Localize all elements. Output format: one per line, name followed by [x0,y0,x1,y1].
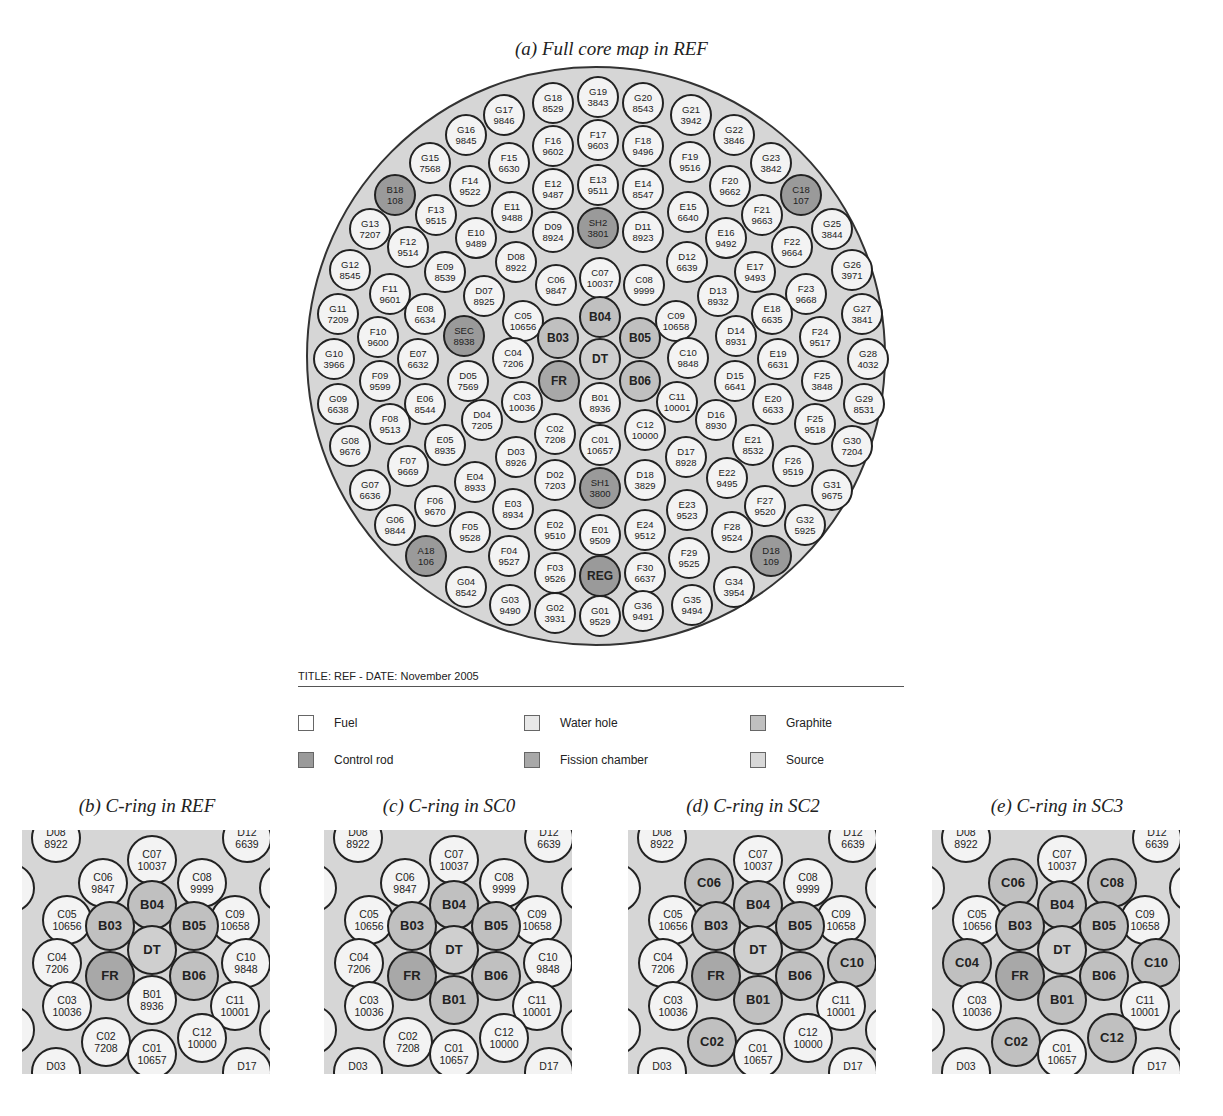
position-value: 9662 [719,186,740,197]
position-id: C12 [798,1026,817,1038]
core-position-g17: G179846 [483,94,525,136]
core-position-c10: C10 [827,938,876,988]
core-position-f27: F279520 [744,485,786,527]
position-id: C07 [444,848,463,860]
core-position-d17: D178928 [828,1047,876,1074]
position-value: 10037 [439,860,468,872]
core-position-d08: D088922 [333,830,383,863]
core-position-c05: C0510656 [952,895,1002,945]
position-id: D08 [652,830,671,838]
core-position-c05: C0510656 [42,895,92,945]
core-position-b01: B01 [429,975,479,1025]
position-id: B06 [182,970,206,982]
core-position-g35: G359494 [671,584,713,626]
position-id: C04 [47,951,66,963]
position-id: C07 [1052,848,1071,860]
position-value: 8932 [707,296,728,307]
position-id: A18 [418,545,435,556]
legend-label: Control rod [334,753,393,767]
position-id: B06 [788,970,812,982]
core-position-c06: C06 [684,858,734,908]
legend-item-graphite: Graphite [750,715,832,731]
core-position-b05: B05 [775,901,825,951]
core-position-b01: B01 [1037,975,1087,1025]
position-value: 10036 [658,1006,687,1018]
core-position-g06: G069844 [374,504,416,546]
position-value: 9528 [459,532,480,543]
legend-item-fission: Fission chamber [524,752,648,768]
core-position-g23: G233842 [750,142,792,184]
position-id: C01 [444,1042,463,1054]
core-position-e16: E169492 [705,217,747,259]
core-position-e07: E076632 [397,338,439,380]
core-position-c04: C04 [942,938,992,988]
position-value: 9669 [397,466,418,477]
position-value: 10657 [137,1054,166,1066]
position-value: 8928 [235,1072,258,1074]
position-value: 9513 [379,424,400,435]
position-value: 3829 [634,480,655,491]
core-position-g21: G213942 [670,94,712,136]
position-id: G36 [634,600,652,611]
position-id: F13 [428,204,444,215]
position-id: F30 [637,562,653,573]
position-value: 9524 [721,532,742,543]
core-position-f16: F169602 [532,125,574,167]
core-position-f28: F289524 [711,511,753,553]
position-id: F29 [681,547,697,558]
position-value: 9676 [339,446,360,457]
position-value: 10657 [439,1054,468,1066]
position-id: E20 [765,393,782,404]
core-position-b03: B03 [537,317,579,359]
core-position-d09: D098924 [532,211,574,253]
position-id: B04 [589,312,611,323]
core-position-d08: D088922 [31,830,81,863]
core-position-e11: E119488 [491,191,533,233]
position-id: G31 [823,479,841,490]
position-id: C08 [192,871,211,883]
position-value: 8922 [650,838,673,850]
position-value: 3841 [851,314,872,325]
position-id: E07 [410,348,427,359]
core-position-g30: G307204 [831,425,873,467]
position-value: 9601 [379,294,400,305]
position-id: C06 [697,877,721,889]
position-id: C07 [748,848,767,860]
position-value: 8933 [464,482,485,493]
position-value: 10001 [1130,1006,1159,1018]
position-value: 10658 [663,321,689,332]
core-position-f29: F299525 [668,537,710,579]
position-id: G01 [591,605,609,616]
position-value: 8531 [853,404,874,415]
position-id: F15 [501,152,517,163]
core-position-f25: F253848 [801,360,843,402]
main-caption: (a) Full core map in REF [0,38,1223,60]
position-value: 6630 [498,163,519,174]
position-value: 8539 [434,272,455,283]
position-value: 9675 [821,490,842,501]
core-position-c12: C1210000 [783,1013,833,1063]
position-id: F08 [382,413,398,424]
legend-swatch [750,752,766,768]
position-id: FR [551,376,567,387]
core-position-g03: G039490 [489,584,531,626]
position-value: 9511 [588,185,608,196]
core-position-c02: C027208 [383,1017,433,1067]
position-id: G27 [853,303,871,314]
position-id: G22 [725,124,743,135]
position-id: D16 [707,409,724,420]
core-position-g01: G019529 [579,595,621,637]
core-position-f06: F069670 [414,485,456,527]
core-position-f14: F149522 [449,165,491,207]
core-position-g15: G157568 [409,142,451,184]
core-position-fr: FR [538,360,580,402]
position-value: 8928 [841,1072,864,1074]
legend-label: Fuel [334,716,357,730]
position-id: F20 [722,175,738,186]
position-id: C05 [663,908,682,920]
position-value: 8545 [339,270,360,281]
position-value: 7208 [544,434,565,445]
position-id: B05 [182,920,206,932]
core-position-f25: F259518 [794,403,836,445]
core-position-g36: G369491 [622,590,664,632]
